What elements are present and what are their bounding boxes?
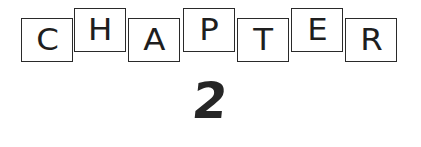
letter: A (143, 25, 165, 55)
letter-box-a: A (128, 18, 180, 62)
letter-box-c: C (21, 18, 73, 62)
letter-box-t: T (237, 18, 289, 62)
letter: R (360, 25, 383, 55)
letter: C (36, 25, 59, 55)
letter: H (88, 15, 112, 45)
letter: T (253, 25, 273, 55)
letter-box-e: E (291, 8, 343, 52)
letter: P (199, 15, 219, 45)
letter-box-p: P (183, 8, 235, 52)
letter-box-h: H (74, 8, 126, 52)
letter-box-r: R (345, 18, 397, 62)
letter: E (307, 15, 327, 45)
chapter-number: 2 (177, 76, 242, 126)
